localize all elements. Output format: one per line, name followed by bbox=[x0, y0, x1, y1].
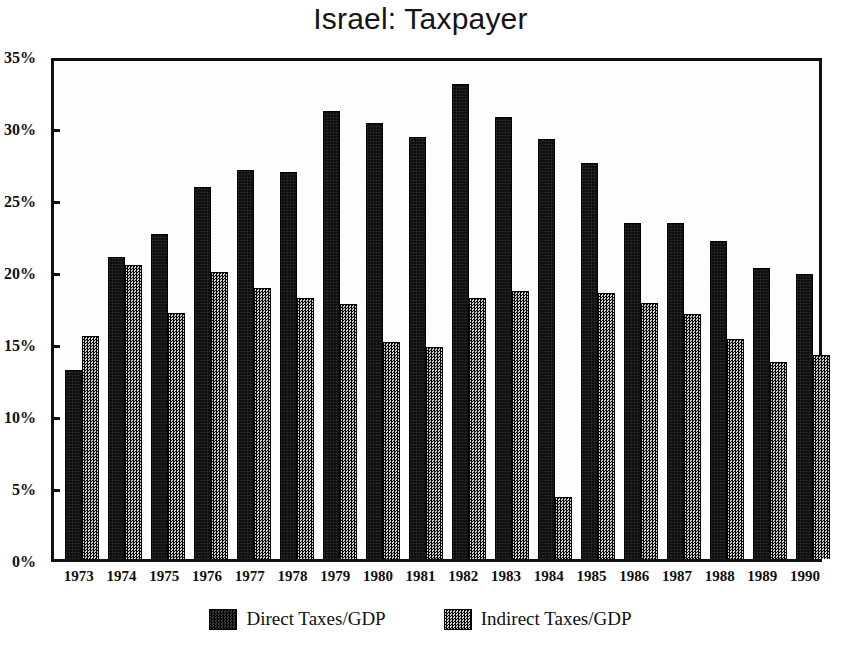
bar-direct-1973 bbox=[65, 370, 82, 559]
bar-direct-1990 bbox=[796, 274, 813, 559]
x-axis-tick-label: 1976 bbox=[190, 568, 224, 590]
legend-label: Direct Taxes/GDP bbox=[246, 608, 385, 630]
bar-indirect-1985 bbox=[598, 293, 615, 559]
bar-direct-1980 bbox=[366, 123, 383, 559]
bar-direct-1988 bbox=[710, 241, 727, 559]
bar-group-1977 bbox=[237, 61, 271, 559]
bar-indirect-1988 bbox=[727, 339, 744, 559]
bar-group-1985 bbox=[581, 61, 615, 559]
x-axis-tick-label: 1985 bbox=[575, 568, 609, 590]
bar-indirect-1979 bbox=[340, 304, 357, 559]
x-axis: 1973197419751976197719781979198019811982… bbox=[51, 568, 822, 590]
bar-direct-1974 bbox=[108, 257, 125, 559]
bar-indirect-1990 bbox=[813, 355, 830, 559]
bar-direct-1986 bbox=[624, 223, 641, 559]
x-axis-tick-label: 1977 bbox=[233, 568, 267, 590]
y-axis-tick-mark bbox=[51, 273, 60, 276]
bar-direct-1981 bbox=[409, 137, 426, 559]
bar-indirect-1976 bbox=[211, 272, 228, 559]
y-axis: 0%5%10%15%20%25%30%35% bbox=[0, 58, 44, 562]
bar-group-1981 bbox=[409, 61, 443, 559]
bar-indirect-1975 bbox=[168, 313, 185, 559]
bar-group-1990 bbox=[796, 61, 830, 559]
legend-label: Indirect Taxes/GDP bbox=[481, 608, 632, 630]
bar-direct-1975 bbox=[151, 234, 168, 559]
y-axis-tick-mark bbox=[51, 345, 60, 348]
bar-group-1989 bbox=[753, 61, 787, 559]
y-axis-tick-label: 0% bbox=[12, 553, 36, 571]
y-axis-tick-label: 25% bbox=[4, 193, 36, 211]
bar-direct-1987 bbox=[667, 223, 684, 559]
bar-group-1973 bbox=[65, 61, 99, 559]
x-axis-tick-label: 1984 bbox=[532, 568, 566, 590]
bar-indirect-1987 bbox=[684, 314, 701, 559]
bar-group-1974 bbox=[108, 61, 142, 559]
bar-group-1983 bbox=[495, 61, 529, 559]
bar-group-1975 bbox=[151, 61, 185, 559]
x-axis-tick-label: 1989 bbox=[746, 568, 780, 590]
bar-group-1984 bbox=[538, 61, 572, 559]
x-axis-tick-label: 1986 bbox=[617, 568, 651, 590]
y-axis-tick-label: 20% bbox=[4, 265, 36, 283]
x-axis-tick-label: 1975 bbox=[147, 568, 181, 590]
bar-indirect-1977 bbox=[254, 288, 271, 559]
bar-chart: Israel: Taxpayer 0%5%10%15%20%25%30%35% … bbox=[0, 0, 841, 661]
legend-entry-indirect[interactable]: Indirect Taxes/GDP bbox=[444, 608, 632, 630]
x-axis-tick-label: 1979 bbox=[318, 568, 352, 590]
bar-indirect-1980 bbox=[383, 342, 400, 559]
x-axis-tick-label: 1987 bbox=[660, 568, 694, 590]
bar-indirect-1984 bbox=[555, 497, 572, 559]
y-axis-tick-mark bbox=[51, 417, 60, 420]
bar-direct-1976 bbox=[194, 187, 211, 559]
bar-group-1987 bbox=[667, 61, 701, 559]
plot-area bbox=[51, 58, 822, 562]
y-axis-tick-mark bbox=[51, 129, 60, 132]
chart-title: Israel: Taxpayer bbox=[0, 2, 841, 36]
x-axis-tick-label: 1982 bbox=[446, 568, 480, 590]
x-axis-tick-label: 1988 bbox=[703, 568, 737, 590]
bar-direct-1985 bbox=[581, 163, 598, 559]
bar-direct-1989 bbox=[753, 268, 770, 559]
y-axis-tick-mark bbox=[51, 201, 60, 204]
bar-direct-1977 bbox=[237, 170, 254, 559]
bar-indirect-1978 bbox=[297, 298, 314, 559]
bar-direct-1983 bbox=[495, 117, 512, 559]
y-axis-tick-label: 35% bbox=[4, 49, 36, 67]
bar-direct-1978 bbox=[280, 172, 297, 559]
x-axis-tick-label: 1973 bbox=[62, 568, 96, 590]
legend-entry-direct[interactable]: Direct Taxes/GDP bbox=[209, 608, 385, 630]
x-axis-tick-label: 1974 bbox=[105, 568, 139, 590]
x-axis-tick-label: 1981 bbox=[404, 568, 438, 590]
x-axis-tick-label: 1980 bbox=[361, 568, 395, 590]
bar-indirect-1973 bbox=[82, 336, 99, 559]
y-axis-tick-label: 15% bbox=[4, 337, 36, 355]
y-axis-tick-label: 30% bbox=[4, 121, 36, 139]
bar-indirect-1981 bbox=[426, 347, 443, 559]
bar-direct-1982 bbox=[452, 84, 469, 559]
direct-swatch bbox=[209, 609, 237, 630]
bar-indirect-1989 bbox=[770, 362, 787, 559]
bar-indirect-1983 bbox=[512, 291, 529, 559]
bar-group-1986 bbox=[624, 61, 658, 559]
x-axis-tick-label: 1990 bbox=[788, 568, 822, 590]
bar-group-1982 bbox=[452, 61, 486, 559]
bar-direct-1984 bbox=[538, 139, 555, 559]
bar-group-1988 bbox=[710, 61, 744, 559]
x-axis-tick-label: 1978 bbox=[276, 568, 310, 590]
chart-legend: Direct Taxes/GDPIndirect Taxes/GDP bbox=[0, 608, 841, 630]
bars-layer bbox=[54, 61, 819, 559]
bar-indirect-1986 bbox=[641, 303, 658, 559]
indirect-swatch bbox=[444, 609, 472, 630]
bar-group-1979 bbox=[323, 61, 357, 559]
bar-group-1976 bbox=[194, 61, 228, 559]
y-axis-tick-mark bbox=[51, 489, 60, 492]
bar-group-1978 bbox=[280, 61, 314, 559]
bar-indirect-1974 bbox=[125, 265, 142, 559]
x-axis-tick-label: 1983 bbox=[489, 568, 523, 590]
y-axis-tick-label: 5% bbox=[12, 481, 36, 499]
bar-indirect-1982 bbox=[469, 298, 486, 559]
bar-direct-1979 bbox=[323, 111, 340, 559]
bar-group-1980 bbox=[366, 61, 400, 559]
y-axis-tick-label: 10% bbox=[4, 409, 36, 427]
